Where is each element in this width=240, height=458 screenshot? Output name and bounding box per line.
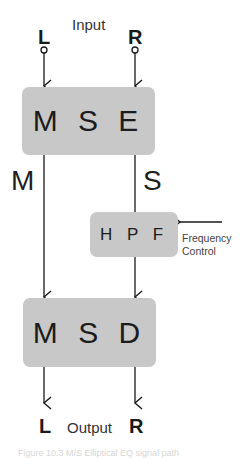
mse-encoder-label: M S E [33,104,145,138]
frequency-control-line1: Frequency [182,232,232,245]
output-right-label: R [129,416,143,436]
input-right-terminal-icon [132,47,138,86]
input-left-label: L [38,27,50,47]
mid-signal-label: M [11,167,34,195]
input-right-label: R [128,27,142,47]
input-left-terminal-icon [41,47,47,86]
input-label: Input [72,17,105,32]
hpf-filter-label: H P F [100,225,168,245]
frequency-control-line2: Control [182,245,232,258]
msd-decoder-label: M S D [33,316,146,350]
figure-caption: Figure 10.3 M/S Elliptical EQ signal pat… [18,448,228,458]
output-label: Output [67,420,112,435]
hpf-filter-block: H P F [90,212,178,257]
output-left-label: L [39,416,51,436]
msd-decoder-block: M S D [23,298,156,367]
side-signal-label: S [143,167,162,195]
frequency-control-label: Frequency Control [182,232,232,258]
mse-encoder-block: M S E [22,87,155,155]
